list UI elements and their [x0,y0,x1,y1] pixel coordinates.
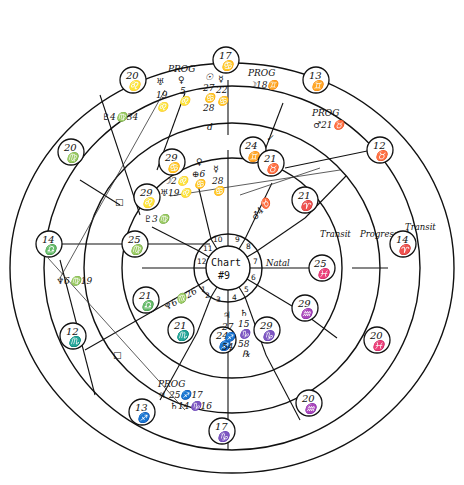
small-d-mark: d [207,122,213,132]
natal-moon-note: ☽2♌ [163,175,190,186]
jupiter-glyph: ♃ [223,310,231,320]
house-5: 5 [244,285,249,294]
prog-label-top-left: PROG [167,64,195,74]
square-mark-lower: □ [113,350,122,360]
outer-cusp-top: 17 ♋ [213,47,239,73]
prog-jupiter-value: ♃ 25♐17 [158,389,203,400]
sun-glyph: ☉ [205,72,214,82]
center-circle [206,246,250,290]
prog-mars-value: ♂21♉ [313,119,346,130]
uranus-deg: 19 [156,90,168,100]
transit-outer-label: Transit [405,222,436,232]
natal-venus-value: ⊕6 [192,169,206,179]
prog-venus-glyph: ♀ [178,75,185,85]
sun-min: 28 [202,103,215,113]
prog-moon-label: PROG [247,68,275,78]
mercury-deg: 22 [215,85,228,95]
saturn-min: 58 [238,339,250,349]
saturn-glyph: ♄ [240,308,248,318]
neptune-note: ♆6♍19 [56,275,93,286]
natal-mars-note: ♂4♉ [249,195,275,223]
asc-pluto-note: ♇3♍ [144,213,171,224]
house-10: 10 [213,235,223,244]
house-8: 8 [246,242,251,251]
house-2: 2 [205,291,210,300]
natal-cusp-5: 29 ♑ [254,317,280,343]
house-7: 7 [253,257,258,266]
outer-cusp-lower-right: 20 ♒ [296,390,322,416]
outer-cusp-left-upper: 20 ♍ [58,139,84,165]
outer-cusp-upper-left: 20 ♌ [120,67,146,93]
natal-mercury-glyph: ☿ [213,164,219,174]
natal-venus-sign: ♋ [194,178,207,189]
svg-text:24: 24 [244,140,258,151]
saturn-sign: ♑ [239,328,252,339]
neptune-natal-note: ♆6♍26 [162,285,199,313]
planet-annotations: PROG ♀ 5 ♌ ♅ 19 ♌ ♇4♍34 ☉ 27 ♋ 28 ☿ 22 ♋… [56,64,346,411]
chart-number: #9 [218,270,230,281]
natal-cusp-11: 29 ♋ [159,149,185,175]
natal-cusp-7: 25 ♓ [309,255,335,281]
house-9: 9 [235,235,240,244]
outer-cusp-right-lower: 20 ♓ [364,327,390,353]
prog-saturn-value: ♄14♑16 [170,400,212,411]
house-4: 4 [232,293,237,302]
prog-mars-label: PROG [311,108,339,118]
uranus-glyph: ♅ [156,77,164,87]
outer-cusp-lower-left: 13 ♐ [129,399,155,425]
natal-cusp-3: 21 ♏ [168,317,194,343]
outer-cusp-left-lower: 12 ♏ [60,323,86,349]
transit-inner-label: Transit [320,229,351,239]
outer-cusp-right-upper: 12 ♉ [367,137,393,163]
natal-mercury-deg: 28 [211,176,224,186]
prog-bottom-label: PROG [157,379,185,389]
prog-moon-value: ☽18♊ [248,79,280,90]
natal-cusp-12: 29 ♌ [134,184,160,210]
natal-mercury-sign: ♋ [213,185,226,196]
house-12: 12 [197,257,207,266]
natal-ring-label: Natal [265,258,290,268]
house-11: 11 [203,244,213,253]
jupiter-min: 54 [222,342,234,352]
outer-cusp-bottom: 17 ♑ [209,418,235,444]
saturn-retrograde: ℞ [242,349,251,359]
natal-cusp-2: 21 ♎ [133,287,159,313]
natal-cusp-8: 21 ♈ [292,187,318,213]
house-3: 3 [216,295,221,304]
sun-deg: 27 [202,83,215,93]
outer-cusp-right: 14 ♈ [390,231,416,257]
natal-cusp-9: 21 ♉ [258,150,284,176]
jupiter-deg: 27 [221,322,234,332]
house-6: 6 [251,273,256,282]
prog-venus-deg: 5 [180,86,186,96]
natal-uranus-note: ♅19♌ [160,187,193,198]
square-mark-upper: □ [115,197,124,207]
natal-venus-glyph: ♀ [196,157,203,167]
outer-cusp-left: 14 ♎ [36,231,62,257]
natal-cusp-1: 25 ♍ [122,231,148,257]
uranus-sign: ♌ [157,101,170,112]
astrology-chart: 1 2 3 4 5 6 7 8 9 10 11 12 Chart #9 Nata… [0,0,464,485]
outer-cusp-upper-right: 13 ♊ [303,67,329,93]
check-mark: ✓ [266,133,274,143]
saturn-deg: 15 [238,319,250,329]
mercury-glyph: ☿ [218,74,224,84]
prog-venus-sign: ♌ [179,95,192,106]
natal-cusp-6: 29 ♒ [292,295,318,321]
pluto-note: ♇4♍34 [102,111,139,122]
chart-title: Chart [211,257,241,268]
